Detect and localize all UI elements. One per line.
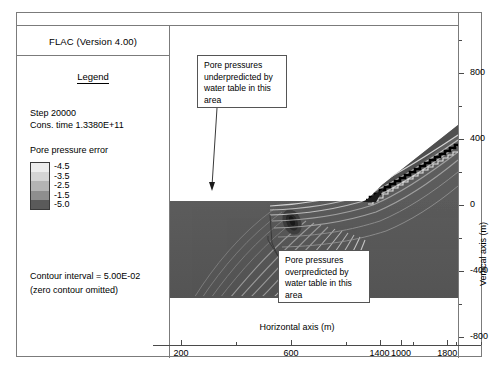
v-minor-tick: [459, 106, 462, 107]
color-swatch-3: [30, 191, 50, 201]
legend-step-info: Step 20000 Cons. time 1.3380E+11: [30, 107, 124, 131]
vertical-axis: Vertical axis (m) 800 400 0 -400 -800: [459, 26, 498, 358]
color-scale: -4.5 -3.5 -2.5 -1.5 -5.0: [30, 162, 170, 210]
color-scale-row: -5.0: [30, 200, 170, 210]
horizontal-axis-line: [153, 345, 481, 346]
h-major-tick: [291, 340, 292, 345]
step-line: Step 20000: [30, 107, 124, 119]
h-minor-tick: [481, 342, 482, 345]
v-tick-label-800: 800: [470, 67, 485, 77]
h-major-tick: [380, 340, 381, 345]
callout-b-line-3: water table in this: [285, 278, 364, 290]
h-tick-label-1000: 1000: [391, 348, 411, 358]
v-tick-label-neg400: -400: [470, 265, 488, 275]
zero-contour-note: (zero contour omitted): [30, 283, 140, 297]
v-major-tick: [459, 205, 464, 206]
h-minor-tick: [236, 342, 237, 345]
time-line: Cons. time 1.3380E+11: [30, 119, 124, 131]
v-tick-label-neg800: -800: [470, 331, 488, 341]
callout-b-line-2: overpredicted by: [285, 267, 364, 279]
color-swatch-label-4: -5.0: [54, 200, 70, 210]
v-minor-tick: [459, 172, 462, 173]
color-scale-row: -4.5: [30, 162, 170, 172]
h-tick-label-1800: 1800: [437, 348, 457, 358]
callout-a-line-2: underpredicted by: [204, 72, 281, 84]
h-minor-tick: [413, 342, 414, 345]
h-major-tick: [447, 340, 448, 345]
legend-variable-name: Pore pressure error: [30, 145, 108, 155]
overpredicted-callout: Pore pressures overpredicted by water ta…: [278, 250, 370, 303]
color-scale-row: -3.5: [30, 172, 170, 182]
callout-a-line-1: Pore pressures: [204, 60, 281, 72]
title-cell: FLAC (Version 4.00): [17, 26, 169, 56]
title-separator: [17, 55, 169, 56]
color-scale-row: -2.5: [30, 181, 170, 191]
callout-b-line-4: area: [285, 290, 364, 302]
v-major-tick: [459, 73, 464, 74]
h-minor-tick: [346, 342, 347, 345]
h-tick-label-200: 200: [173, 348, 188, 358]
h-tick-label-600: 600: [283, 348, 298, 358]
app-title: FLAC (Version 4.00): [49, 36, 137, 47]
v-tick-label-0: 0: [470, 199, 475, 209]
callout-b-line-1: Pore pressures: [285, 255, 364, 267]
legend-heading: Legend: [17, 71, 169, 82]
h-major-tick: [181, 340, 182, 345]
h-major-tick: [401, 340, 402, 345]
v-minor-tick: [459, 40, 462, 41]
color-swatch-0: [30, 162, 50, 172]
v-tick-label-400: 400: [470, 133, 485, 143]
v-minor-tick: [459, 304, 462, 305]
contour-interval-text: Contour interval = 5.00E-02: [30, 269, 140, 283]
legend-heading-text: Legend: [77, 71, 109, 84]
underpredicted-callout: Pore pressures underpredicted by water t…: [197, 55, 287, 108]
vertical-axis-title: Vertical axis (m): [478, 222, 488, 286]
v-major-tick: [459, 139, 464, 140]
callout-a-line-3: water table in this: [204, 83, 281, 95]
flac-plot-window: FLAC (Version 4.00) Legend Step 20000 Co…: [0, 0, 501, 380]
color-swatch-2: [30, 181, 50, 191]
h-minor-tick: [456, 342, 457, 345]
h-tick-label-1400: 1400: [370, 348, 390, 358]
v-minor-tick: [459, 238, 462, 239]
legend-panel: Legend Step 20000 Cons. time 1.3380E+11 …: [17, 57, 169, 358]
v-major-tick: [459, 271, 464, 272]
v-major-tick: [459, 337, 464, 338]
color-swatch-1: [30, 172, 50, 182]
callout-a-line-4: area: [204, 95, 281, 107]
legend-footer: Contour interval = 5.00E-02 (zero contou…: [30, 269, 140, 297]
horizontal-axis-title: Horizontal axis (m): [153, 322, 441, 332]
color-scale-row: -1.5: [30, 191, 170, 201]
color-swatch-4: [30, 200, 50, 210]
